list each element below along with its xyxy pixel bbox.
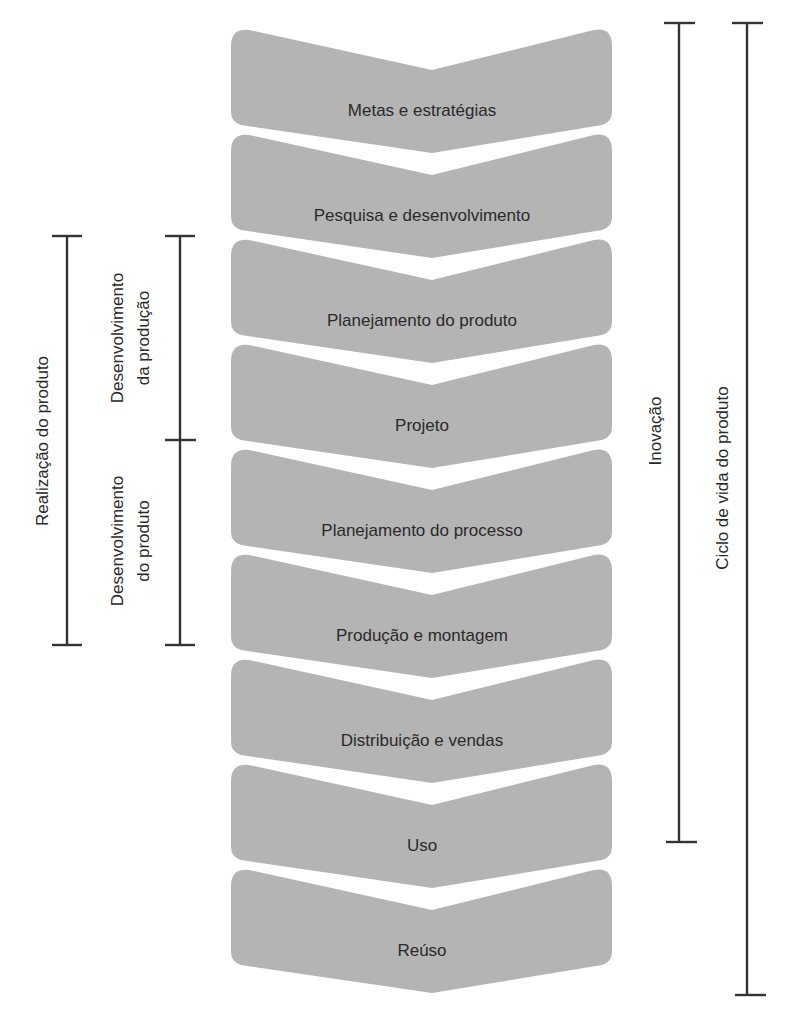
stage-chevron: Projeto — [231, 345, 612, 468]
stage-chevrons: Metas e estratégias Pesquisa e desenvolv… — [231, 30, 612, 993]
stage-chevron: Planejamento do processo — [231, 450, 612, 573]
stage-label: Reúso — [397, 941, 446, 960]
stage-chevron: Reúso — [231, 870, 612, 993]
stage-chevron: Distribuição e vendas — [231, 660, 612, 783]
bracket-ciclo-vida: Ciclo de vida do produto — [713, 23, 766, 995]
stage-label: Produção e montagem — [336, 626, 508, 645]
stage-chevron: Metas e estratégias — [231, 30, 612, 153]
stage-label: Metas e estratégias — [348, 101, 496, 120]
stage-label: Planejamento do produto — [327, 311, 517, 330]
bracket-label-desenvolvimento-producao-line1: Desenvolvimento — [108, 273, 127, 403]
stage-chevron: Uso — [231, 765, 612, 888]
bracket-inovacao: Inovação — [646, 23, 697, 842]
stage-chevron: Pesquisa e desenvolvimento — [231, 135, 612, 258]
bracket-desenvolvimento: Desenvolvimento da produção Desenvolvime… — [108, 236, 196, 645]
stage-label: Projeto — [395, 416, 449, 435]
bracket-realizacao: Realização do produto — [33, 236, 82, 645]
stage-label: Uso — [407, 836, 437, 855]
bracket-label-desenvolvimento-producao-line2: da produção — [134, 291, 153, 386]
stage-label: Pesquisa e desenvolvimento — [314, 206, 530, 225]
bracket-label-ciclo-vida: Ciclo de vida do produto — [713, 386, 732, 569]
bracket-label-inovacao: Inovação — [646, 397, 665, 466]
stage-chevron: Planejamento do produto — [231, 240, 612, 363]
bracket-label-desenvolvimento-produto-line2: do produto — [134, 500, 153, 581]
stage-label: Planejamento do processo — [321, 521, 522, 540]
bracket-label-realizacao: Realização do produto — [33, 356, 52, 526]
stage-chevron: Produção e montagem — [231, 555, 612, 678]
product-lifecycle-diagram: Metas e estratégias Pesquisa e desenvolv… — [0, 0, 785, 1010]
bracket-label-desenvolvimento-produto-line1: Desenvolvimento — [108, 476, 127, 606]
stage-label: Distribuição e vendas — [341, 731, 504, 750]
